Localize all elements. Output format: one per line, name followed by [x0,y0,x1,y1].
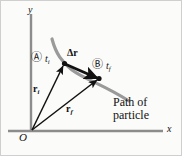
path-annotation: Path ofparticle [113,96,149,123]
point-b-time-label: tf [106,61,111,71]
origin-label: O [19,132,27,143]
figure-canvas [0,0,182,156]
final-position-vector-label: rf [66,104,73,114]
y-axis-label: y [28,5,32,15]
displacement-vector-label: Δr [67,48,78,58]
point-a-time-subscript: i [48,58,50,65]
path-annotation-line1: Path of [113,96,149,109]
figure-border [1,1,182,156]
point-b-marker-label: Ⓑ [92,59,103,70]
point-b-time-subscript: f [109,65,111,72]
final-position-vector-subscript: f [70,108,72,115]
point-b-dot [96,76,101,81]
initial-position-vector-subscript: i [37,88,39,95]
point-a-dot [62,61,67,66]
x-axis-label: x [167,124,171,134]
physics-displacement-figure: y x O Ⓐ ti Ⓑ tf Δr ri rf Path ofparticle [0,0,182,156]
initial-position-vector-label: ri [33,84,39,94]
path-annotation-line2: particle [113,109,149,122]
point-a-marker-label: Ⓐ [31,52,42,63]
point-a-time-label: ti [45,54,50,64]
